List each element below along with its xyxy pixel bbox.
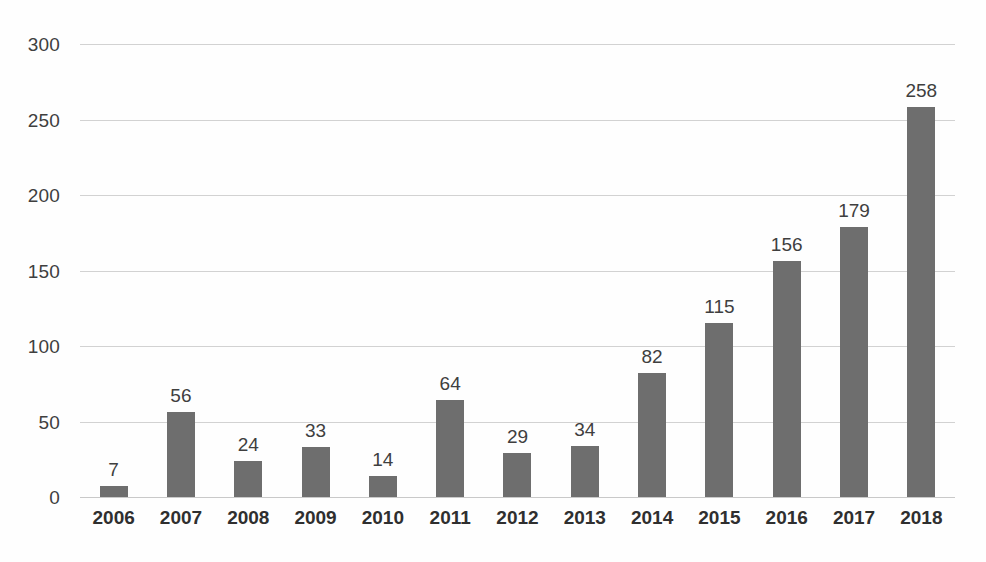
bar[interactable] bbox=[705, 323, 733, 497]
bars-layer: 75624331464293482115156179258 bbox=[80, 44, 955, 497]
bar-value-label: 56 bbox=[170, 386, 191, 405]
y-tick-label: 100 bbox=[12, 337, 60, 356]
bar-group[interactable]: 29 bbox=[484, 44, 551, 497]
bar-value-label: 115 bbox=[704, 297, 734, 316]
bar-group[interactable]: 179 bbox=[820, 44, 887, 497]
bar-group[interactable]: 156 bbox=[753, 44, 820, 497]
y-tick-label: 200 bbox=[12, 186, 60, 205]
y-tick-label: 0 bbox=[12, 488, 60, 507]
gridline-0 bbox=[80, 497, 955, 498]
y-tick-label: 250 bbox=[12, 110, 60, 129]
bar-group[interactable]: 258 bbox=[888, 44, 955, 497]
bar-group[interactable]: 56 bbox=[147, 44, 214, 497]
bar-value-label: 33 bbox=[305, 421, 326, 440]
bar-group[interactable]: 34 bbox=[551, 44, 618, 497]
bar-value-label: 24 bbox=[238, 435, 259, 454]
bar-group[interactable]: 64 bbox=[417, 44, 484, 497]
bar-value-label: 156 bbox=[771, 235, 803, 254]
bar[interactable] bbox=[571, 446, 599, 497]
bar-value-label: 179 bbox=[838, 201, 870, 220]
bar-group[interactable]: 115 bbox=[686, 44, 753, 497]
bar-group[interactable]: 14 bbox=[349, 44, 416, 497]
bar[interactable] bbox=[503, 453, 531, 497]
bar-chart: 300250200150100500 756243314642934821151… bbox=[0, 0, 986, 562]
page-caption-partial bbox=[0, 552, 986, 562]
bar-value-label: 258 bbox=[905, 81, 937, 100]
bar[interactable] bbox=[234, 461, 262, 497]
bar-value-label: 34 bbox=[574, 420, 595, 439]
bar[interactable] bbox=[167, 412, 195, 497]
y-tick-label: 150 bbox=[12, 261, 60, 280]
bar-group[interactable]: 7 bbox=[80, 44, 147, 497]
bar-group[interactable]: 82 bbox=[618, 44, 685, 497]
bar-group[interactable]: 33 bbox=[282, 44, 349, 497]
bar[interactable] bbox=[100, 486, 128, 497]
bar-value-label: 14 bbox=[372, 450, 393, 469]
y-tick-label: 300 bbox=[12, 35, 60, 54]
y-tick-label: 50 bbox=[12, 412, 60, 431]
bar[interactable] bbox=[840, 227, 868, 497]
bar-value-label: 29 bbox=[507, 427, 528, 446]
x-tick-label: 2018 bbox=[881, 508, 961, 527]
bar-value-label: 82 bbox=[642, 347, 663, 366]
bar-value-label: 64 bbox=[440, 374, 461, 393]
bar[interactable] bbox=[369, 476, 397, 497]
bar-value-label: 7 bbox=[108, 460, 119, 479]
bar-group[interactable]: 24 bbox=[215, 44, 282, 497]
bar[interactable] bbox=[907, 107, 935, 497]
bar[interactable] bbox=[773, 261, 801, 497]
bar[interactable] bbox=[302, 447, 330, 497]
bar[interactable] bbox=[638, 373, 666, 497]
bar[interactable] bbox=[436, 400, 464, 497]
